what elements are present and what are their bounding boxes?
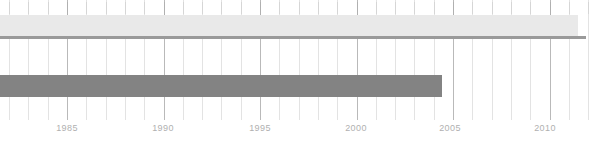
bar-upper-span[interactable]: [0, 15, 578, 36]
tick-mark: [48, 2, 49, 14]
tick-mark: [550, 2, 551, 15]
tick-mark: [221, 2, 222, 14]
tick-mark: [106, 2, 107, 14]
tick-mark: [67, 2, 68, 15]
tick-mark: [164, 2, 165, 15]
tick-mark: [28, 2, 29, 14]
tick-mark: [318, 2, 319, 14]
tick-mark: [472, 2, 473, 14]
x-axis-tick-label: 2005: [439, 123, 461, 133]
tick-mark: [9, 2, 10, 14]
bar-upper-span-edge: [0, 36, 586, 39]
tick-mark: [337, 2, 338, 14]
tick-mark: [511, 2, 512, 14]
gridline-minor: [588, 0, 589, 120]
timeline-chart: 198519901995200020052010: [0, 0, 592, 147]
x-axis-tick-label: 1990: [152, 123, 174, 133]
bar-lower-span[interactable]: [0, 75, 442, 97]
plot-area: 198519901995200020052010: [0, 0, 592, 147]
tick-mark: [588, 2, 589, 14]
x-axis-tick-label: 1995: [249, 123, 271, 133]
tick-mark: [279, 2, 280, 14]
tick-mark: [183, 2, 184, 14]
tick-mark: [260, 2, 261, 15]
tick-mark: [414, 2, 415, 14]
x-axis-tick-label: 1985: [56, 123, 78, 133]
tick-mark: [395, 2, 396, 14]
x-axis-tick-label: 2010: [534, 123, 556, 133]
tick-mark: [86, 2, 87, 14]
tick-mark: [569, 2, 570, 14]
tick-mark: [299, 2, 300, 14]
tick-mark: [434, 2, 435, 14]
tick-mark: [202, 2, 203, 14]
tick-mark: [453, 2, 454, 15]
tick-mark: [530, 2, 531, 14]
tick-mark: [376, 2, 377, 14]
tick-mark: [357, 2, 358, 15]
tick-mark: [492, 2, 493, 14]
tick-mark: [241, 2, 242, 14]
x-axis-tick-label: 2000: [345, 123, 367, 133]
tick-mark: [125, 2, 126, 14]
tick-mark: [144, 2, 145, 14]
